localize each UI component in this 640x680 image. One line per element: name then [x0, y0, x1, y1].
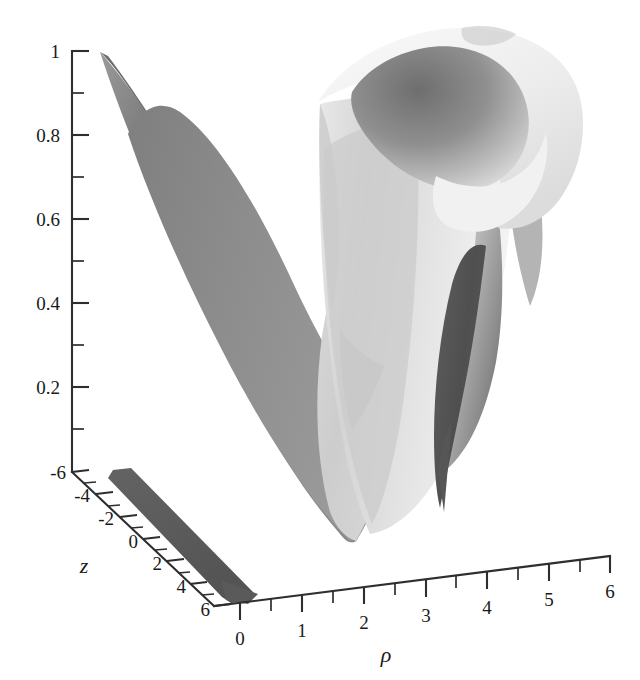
zaxis-minor-3 — [178, 572, 190, 573]
zaxis-label-4: 4 — [177, 576, 187, 597]
raxis-label-1: 1 — [297, 620, 307, 641]
vaxis-label-0-8: 0.8 — [36, 125, 60, 146]
vaxis-label-0-6: 0.6 — [36, 209, 60, 230]
raxis-label-3: 3 — [421, 605, 431, 626]
zaxis-minor--5 — [84, 482, 96, 483]
horizontal-axis-title: ρ — [380, 642, 392, 667]
zaxis-minor-5 — [202, 594, 214, 595]
raxis-label-5: 5 — [544, 589, 554, 610]
raxis-label-6: 6 — [605, 581, 615, 602]
raxis-label-0: 0 — [235, 628, 245, 649]
raxis-label-4: 4 — [482, 597, 492, 618]
zaxis-minor--3 — [108, 505, 120, 506]
vaxis-label-1: 1 — [51, 41, 61, 62]
surface-plot-figure: 1 0.8 0.6 0.4 0.2 -6 -4 -2 0 2 4 6 z — [0, 0, 640, 680]
zaxis-label-2: 2 — [153, 553, 163, 574]
zaxis-label--2: -2 — [98, 508, 114, 529]
zaxis-minor--1 — [131, 527, 143, 528]
zaxis-minor-1 — [155, 549, 167, 550]
raxis-label-2: 2 — [359, 612, 369, 633]
depth-axis-title: z — [79, 553, 89, 578]
zaxis-label--6: -6 — [50, 462, 66, 483]
vaxis-label-0-4: 0.4 — [36, 293, 60, 314]
zaxis-label--4: -4 — [74, 485, 90, 506]
zaxis-label-0: 0 — [129, 531, 139, 552]
zaxis-label-6: 6 — [201, 599, 211, 620]
vaxis-label-0-2: 0.2 — [36, 377, 60, 398]
